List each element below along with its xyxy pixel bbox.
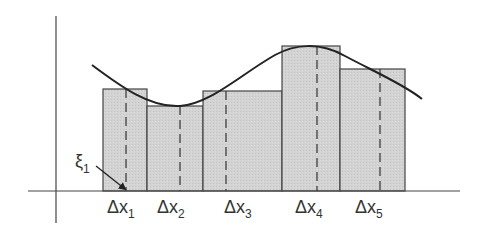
label-dx2: Δx2 [157, 197, 185, 221]
delta-x-symbol: Δx [157, 197, 178, 217]
riemann-rectangle-3 [203, 91, 282, 191]
riemann-sum-diagram: Δx1Δx2Δx3Δx4Δx5 ξ1 [0, 0, 483, 235]
riemann-rectangle-2 [147, 106, 203, 191]
xi-1-label: ξ1 [75, 151, 90, 176]
xi-subscript: 1 [83, 162, 90, 176]
riemann-rectangle-5 [340, 69, 405, 191]
delta-x-subscript: 3 [245, 207, 252, 221]
delta-x-subscript: 2 [178, 207, 185, 221]
xi-symbol: ξ [75, 151, 83, 171]
label-dx3: Δx3 [224, 197, 252, 221]
delta-x-subscript: 4 [316, 207, 323, 221]
riemann-rectangle-4 [282, 46, 340, 191]
delta-x-symbol: Δx [224, 197, 245, 217]
riemann-rectangle-1 [103, 89, 147, 191]
delta-x-subscript: 1 [128, 207, 135, 221]
label-dx4: Δx4 [295, 197, 323, 221]
interval-labels: Δx1Δx2Δx3Δx4Δx5 [107, 197, 383, 221]
delta-x-symbol: Δx [295, 197, 316, 217]
delta-x-subscript: 5 [376, 207, 383, 221]
delta-x-symbol: Δx [355, 197, 376, 217]
label-dx5: Δx5 [355, 197, 383, 221]
delta-x-symbol: Δx [107, 197, 128, 217]
label-dx1: Δx1 [107, 197, 135, 221]
